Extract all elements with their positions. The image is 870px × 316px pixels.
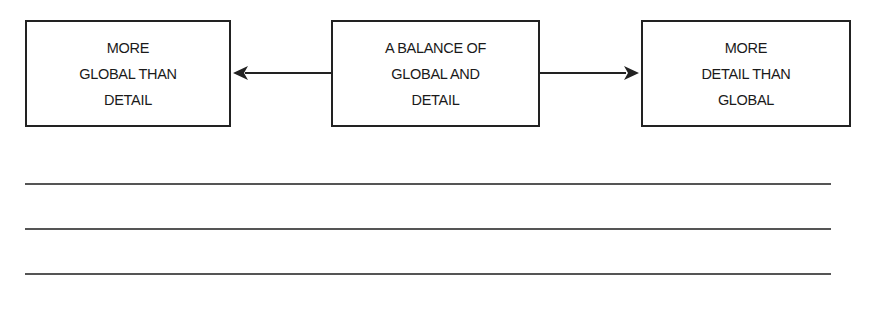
node-label: MORE GLOBAL THAN DETAIL <box>79 35 176 113</box>
node-more-global-than-detail: MORE GLOBAL THAN DETAIL <box>25 20 231 127</box>
answer-line-1[interactable] <box>25 183 831 185</box>
node-balance-of-global-and-detail: A BALANCE OF GLOBAL AND DETAIL <box>331 20 540 127</box>
answer-line-2[interactable] <box>25 228 831 230</box>
node-label: A BALANCE OF GLOBAL AND DETAIL <box>385 35 486 113</box>
answer-line-3[interactable] <box>25 273 831 275</box>
node-more-detail-than-global: MORE DETAIL THAN GLOBAL <box>641 20 851 127</box>
node-label: MORE DETAIL THAN GLOBAL <box>701 35 790 113</box>
arrow-right-icon <box>540 64 641 82</box>
arrow-left-icon <box>231 64 331 82</box>
